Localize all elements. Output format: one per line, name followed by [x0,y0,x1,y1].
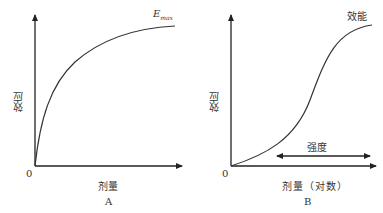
efficacy-label: 效能 [347,8,367,23]
panel-a-y-label: 效应 [11,92,26,112]
panel-b-axes [231,15,376,166]
panel-b-y-label: 效应 [207,92,222,112]
panel-b-origin-label: 0 [222,168,228,179]
potency-label: 强度 [307,139,327,154]
panel-b-title: B [304,196,311,207]
panel-a-curve [35,26,175,166]
emax-label: Emax [153,8,173,21]
panel-a-title: A [105,196,112,207]
panel-b-x-label: 剂量（对数） [282,178,348,193]
panel-a-x-label: 剂量 [98,178,118,193]
panel-b-curve [231,25,372,166]
panel-a-origin-label: 0 [26,168,32,179]
panel-a-axes [35,15,182,166]
